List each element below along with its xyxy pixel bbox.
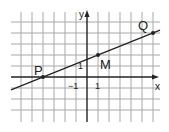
line-pq xyxy=(11,30,160,90)
x-tick-1: 1 xyxy=(95,81,100,91)
y-tick-1: 1 xyxy=(78,61,83,71)
point-q-label: Q xyxy=(138,18,148,33)
point-p-label: P xyxy=(34,63,43,78)
plot-svg: y x −1 1 1 P M Q xyxy=(0,0,169,132)
point-m-label: M xyxy=(100,57,111,72)
point-q-marker xyxy=(151,31,155,35)
y-axis-arrow-icon xyxy=(85,10,90,17)
x-tick-neg1: −1 xyxy=(68,81,78,91)
x-axis-label: x xyxy=(155,81,160,92)
y-axis-label: y xyxy=(79,9,84,20)
data-line xyxy=(11,30,160,90)
x-axis-arrow-icon xyxy=(152,75,159,80)
coordinate-plot: y x −1 1 1 P M Q xyxy=(0,0,169,132)
